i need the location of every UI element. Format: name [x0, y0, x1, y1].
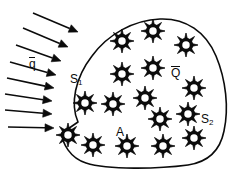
arrow-head: [58, 40, 68, 47]
surface-1-label: S1: [70, 70, 82, 87]
heat-flux-arrow: [8, 124, 54, 132]
star-core: [184, 110, 191, 117]
heat-source-star: [110, 62, 134, 86]
heat-source-star: [81, 133, 105, 157]
generation-label-text: Q: [171, 66, 180, 80]
heat-source-star: [174, 33, 198, 57]
heat-conduction-diagram: q S1 Q S2 A: [0, 0, 244, 185]
heat-source-star: [151, 134, 175, 158]
arrow-shaft: [5, 94, 43, 100]
heat-flux-arrow: [23, 28, 68, 47]
heat-source-star: [141, 56, 165, 80]
arrow-shaft: [7, 78, 45, 86]
heat-source-star: [73, 91, 97, 115]
arrow-shaft: [8, 127, 45, 128]
heat-flux-arrow: [5, 94, 52, 104]
heat-source-star: [56, 123, 80, 147]
area-label-text: A: [116, 125, 124, 139]
star-core: [64, 131, 71, 138]
arrow-head: [43, 96, 52, 104]
surface-1-label-text: S: [70, 72, 78, 86]
heat-flux-arrow: [16, 45, 61, 62]
heat-source-star: [176, 102, 200, 126]
flux-label-text: q: [29, 57, 36, 71]
heat-flux-arrow: [33, 13, 78, 32]
arrow-shaft: [5, 110, 43, 113]
arrow-head: [68, 25, 78, 32]
arrow-head: [51, 54, 61, 62]
surface-2-subscript: 2: [209, 118, 213, 127]
arrow-head: [44, 82, 54, 90]
flux-label: q: [29, 55, 36, 71]
star-core: [190, 134, 197, 141]
heat-source-star: [141, 19, 165, 43]
area-label: A: [116, 123, 124, 139]
heat-source-star: [101, 92, 125, 116]
star-core: [159, 142, 166, 149]
star-core: [149, 64, 156, 71]
star-core: [156, 115, 163, 122]
star-core: [149, 27, 156, 34]
star-core: [118, 70, 125, 77]
surface-2-label: S2: [201, 110, 213, 127]
arrow-shaft: [33, 13, 70, 29]
heat-flux-arrow: [5, 109, 52, 117]
surface-1-subscript: 1: [78, 78, 82, 87]
star-core: [123, 142, 130, 149]
heat-source-star: [133, 86, 157, 110]
star-core: [118, 37, 125, 44]
heat-flux-arrow: [7, 78, 54, 90]
arrow-shaft: [23, 28, 60, 44]
generation-label: Q: [171, 64, 180, 80]
heat-source-star: [148, 107, 172, 131]
star-core: [89, 141, 96, 148]
star-core: [141, 94, 148, 101]
heat-source-star: [182, 76, 206, 100]
star-core: [81, 99, 88, 106]
star-core: [182, 41, 189, 48]
arrow-head: [43, 109, 52, 117]
arrow-head: [45, 124, 54, 132]
overbar: [171, 66, 180, 67]
heat-source-star: [182, 126, 206, 150]
star-core: [190, 84, 197, 91]
diagram-canvas: [0, 0, 244, 185]
arrow-head: [46, 69, 56, 77]
heat-source-star: [110, 29, 134, 53]
star-core: [109, 100, 116, 107]
overbar: [29, 57, 35, 58]
surface-2-label-text: S: [201, 112, 209, 126]
